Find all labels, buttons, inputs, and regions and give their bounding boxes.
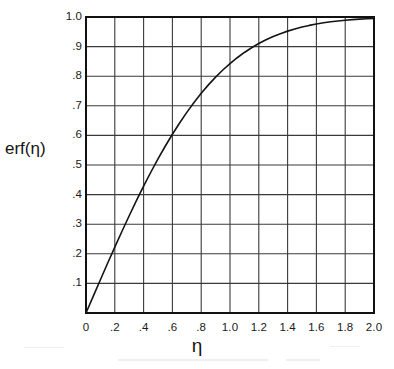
x-tick-label: 2.0 <box>366 322 382 334</box>
erf-chart-figure: .1.2.3.4.5.6.7.8.91.0 0.2.4.6.81.01.21.4… <box>0 0 394 369</box>
x-tick-label: 1.8 <box>337 322 353 334</box>
x-tick-label: .8 <box>196 322 206 334</box>
x-tick-label: 1.4 <box>279 322 295 334</box>
x-axis-title: η <box>0 336 394 355</box>
x-tick-label: 1.6 <box>308 322 324 334</box>
x-tick-label: 1.0 <box>222 322 238 334</box>
x-tick-label: .2 <box>110 322 120 334</box>
x-tick-label: .4 <box>139 322 149 334</box>
x-axis-tick-labels: 0.2.4.6.81.01.21.41.61.82.0 <box>0 0 394 369</box>
x-tick-label: 1.2 <box>251 322 267 334</box>
y-axis-title: erf(η) <box>5 140 71 157</box>
x-tick-label: .6 <box>167 322 177 334</box>
x-tick-label: 0 <box>83 322 90 334</box>
